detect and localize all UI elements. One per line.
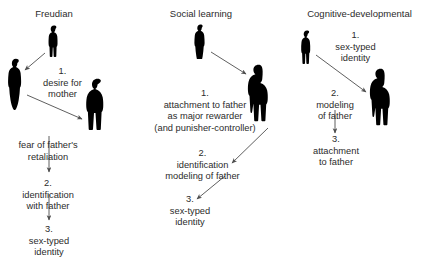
cognitive-step-2-label: 2. modeling of father bbox=[292, 88, 378, 123]
diagram-canvas: Freudian Social learning Cognitive-devel… bbox=[0, 0, 427, 277]
cognitive-step-1-label: 1. sex-typed identity bbox=[308, 30, 403, 65]
cognitive-step-3-label: 3. attachment to father bbox=[290, 134, 382, 169]
